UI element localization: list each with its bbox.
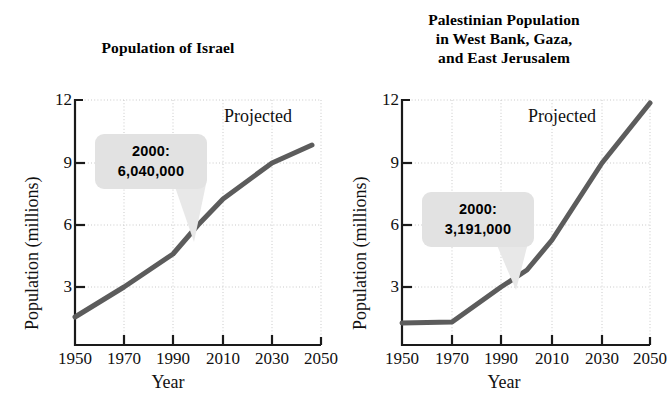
y-tick-label-12: 12 [46,90,72,110]
x-axis-label-palestinian: Year [336,372,672,393]
callout-tail-palestinian [476,240,556,300]
x-tick-label-1990: 1990 [148,349,198,369]
x-tick-label-1950: 1950 [50,349,100,369]
callout-israel: 2000: 6,040,000 [95,134,207,189]
callout-palestinian: 2000: 3,191,000 [422,192,534,247]
y-axis-label-israel: Population (millions) [22,176,43,330]
x-tick-label-1990: 1990 [476,349,526,369]
y-tick-label-6: 6 [46,215,72,235]
x-tick-marks [124,335,321,345]
y-tick-label-3: 3 [373,277,399,297]
y-tick-label-9: 9 [46,153,72,173]
x-tick-label-1970: 1970 [99,349,149,369]
y-tick-label-3: 3 [46,277,72,297]
x-tick-label-2030: 2030 [577,349,627,369]
x-axis-label-israel: Year [0,372,336,393]
y-tick-label-9: 9 [373,153,399,173]
projected-annotation-palestinian: Projected [528,106,596,127]
projected-annotation-israel: Projected [224,106,292,127]
x-tick-label-1970: 1970 [427,349,477,369]
x-tick-label-1950: 1950 [377,349,427,369]
y-tick-marks [75,163,85,287]
x-tick-label-2030: 2030 [247,349,297,369]
y-tick-marks [402,163,412,287]
x-tick-label-2010: 2010 [527,349,577,369]
x-tick-label-2010: 2010 [198,349,248,369]
y-axis-label-palestinian: Population (millions) [350,176,371,330]
x-tick-marks [452,335,650,345]
figure-container: Population of Israel [0,0,672,402]
chart-panel-israel: Population of Israel [0,0,336,402]
callout-tail-israel [150,180,230,250]
y-tick-label-6: 6 [373,215,399,235]
x-tick-label-2050: 2050 [625,349,672,369]
chart-panel-palestinian: Palestinian Population in West Bank, Gaz… [336,0,672,402]
y-tick-label-12: 12 [373,90,399,110]
